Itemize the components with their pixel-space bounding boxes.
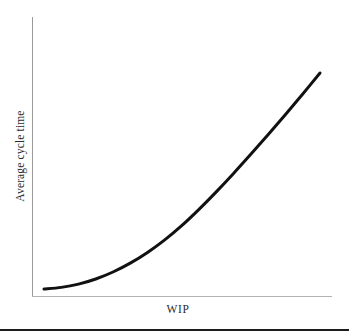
chart-plot-canvas — [0, 0, 349, 335]
cycle-time-curve — [44, 73, 320, 289]
x-axis-title-label: WIP — [32, 303, 324, 315]
bottom-separator-rule — [0, 329, 349, 331]
chart-figure: Average cycle time WIP — [0, 0, 349, 335]
